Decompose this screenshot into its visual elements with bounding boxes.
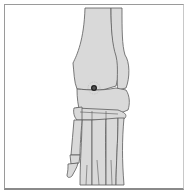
wrist-bone-illustration bbox=[0, 0, 188, 194]
thumb-proximal-phalanx bbox=[70, 155, 80, 164]
metacarpal-2 bbox=[80, 120, 92, 185]
thumb-metacarpal bbox=[71, 120, 82, 155]
thumb-carpal bbox=[74, 107, 82, 120]
thumb-distal-phalanx bbox=[67, 163, 78, 177]
metacarpal-3 bbox=[92, 119, 106, 185]
